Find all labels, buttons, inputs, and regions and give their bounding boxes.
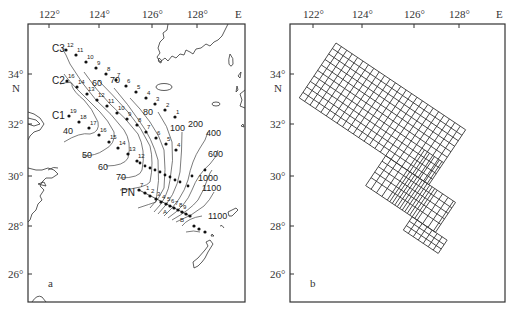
contour-label-70-south: 70: [116, 172, 126, 182]
svg-text:11: 11: [77, 47, 84, 53]
svg-text:18: 18: [80, 114, 87, 120]
svg-text:3: 3: [157, 191, 161, 197]
x-tick-128: 128°: [449, 8, 470, 20]
contour-label-100: 100: [170, 123, 185, 133]
svg-text:15: 15: [110, 134, 117, 140]
svg-text:19: 19: [70, 108, 77, 114]
contour-label-200: 200: [188, 119, 203, 129]
contour-label-80: 80: [143, 107, 153, 117]
section-label-c2: C2: [52, 75, 65, 86]
y-tick-32: 32°: [8, 118, 23, 130]
panel-a-sections: C3 12 11 10 9 8 7 6 5 4 3 2 1 C2: [52, 42, 207, 234]
y-tick-32: 32°: [270, 118, 285, 130]
x-tick-122: 122°: [303, 8, 324, 20]
section-label-c3: C3: [52, 43, 65, 54]
svg-text:12: 12: [138, 153, 145, 159]
svg-text:7: 7: [140, 182, 144, 188]
svg-text:4: 4: [177, 142, 181, 148]
svg-text:12: 12: [67, 42, 74, 48]
svg-text:7: 7: [117, 72, 121, 78]
y-tick-34: 34°: [8, 68, 23, 80]
svg-text:6: 6: [127, 78, 131, 84]
svg-text:6: 6: [157, 130, 161, 136]
svg-text:A: A: [163, 209, 167, 215]
svg-text:2: 2: [166, 102, 170, 108]
panel-a-isobaths: [60, 48, 218, 232]
svg-text:13: 13: [129, 146, 136, 152]
panel-label-a: a: [48, 277, 53, 289]
figure-canvas: 122° 124° 126° 128° E 34° N 32° 30° 28° …: [0, 0, 516, 310]
contour-label-400: 400: [206, 128, 221, 138]
contour-label-60-south: 60: [98, 162, 108, 172]
x-tick-126: 126°: [404, 8, 425, 20]
svg-text:1: 1: [176, 109, 180, 115]
svg-text:4: 4: [147, 90, 151, 96]
section-label-pn: PN: [121, 187, 135, 198]
svg-text:10: 10: [118, 105, 125, 111]
svg-text:17: 17: [90, 120, 97, 126]
y-tick-26: 26°: [8, 268, 23, 280]
panel-a-x-axis: 122° 124° 126° 128° E: [39, 8, 242, 28]
svg-text:7: 7: [147, 124, 151, 130]
svg-text:16: 16: [100, 127, 107, 133]
panel-b: 122° 124° 126° 128° E 34° N 32° 30° 28° …: [270, 8, 507, 302]
contour-label-1100-lower: 1100: [208, 211, 227, 221]
svg-text:5: 5: [137, 84, 141, 90]
section-label-c1: C1: [52, 110, 65, 121]
contour-label-600: 600: [208, 149, 223, 159]
y-tick-28: 28°: [8, 220, 23, 232]
y-unit-north: N: [12, 82, 20, 94]
svg-text:9: 9: [97, 60, 101, 66]
x-unit-east: E: [235, 8, 242, 20]
panel-b-x-axis: 122° 124° 126° 128° E: [303, 8, 503, 28]
panel-a-coastlines: [28, 24, 245, 302]
y-tick-30: 30°: [270, 170, 285, 182]
svg-text:8: 8: [138, 117, 142, 123]
section-c1-stations: 19 18 17 16 15 14 13 12: [67, 108, 145, 163]
svg-text:13: 13: [88, 86, 95, 92]
y-tick-34: 34°: [270, 68, 285, 80]
computational-grid: [270, 43, 504, 253]
svg-text:14: 14: [119, 140, 126, 146]
svg-text:2: 2: [151, 188, 155, 194]
svg-text:16: 16: [68, 73, 75, 79]
svg-text:14: 14: [78, 79, 85, 85]
y-unit-north: N: [274, 82, 282, 94]
svg-text:9: 9: [183, 204, 187, 210]
y-tick-30: 30°: [8, 170, 23, 182]
x-tick-128: 128°: [187, 8, 208, 20]
svg-text:3: 3: [156, 96, 160, 102]
svg-text:11: 11: [108, 98, 115, 104]
contour-label-50: 50: [82, 150, 92, 160]
x-tick-124: 124°: [352, 8, 373, 20]
x-tick-126: 126°: [142, 8, 163, 20]
panel-label-b: b: [310, 277, 316, 289]
x-tick-124: 124°: [89, 8, 110, 20]
svg-text:B: B: [180, 217, 184, 223]
x-tick-122: 122°: [39, 8, 60, 20]
svg-text:10: 10: [87, 54, 94, 60]
y-tick-26: 26°: [270, 268, 285, 280]
contour-label-1000: 1000: [198, 173, 218, 183]
svg-text:8: 8: [107, 66, 111, 72]
svg-text:12: 12: [98, 92, 105, 98]
y-tick-28: 28°: [270, 220, 285, 232]
panel-a-frame: [28, 24, 245, 302]
svg-text:1: 1: [146, 185, 150, 191]
contour-label-40: 40: [63, 126, 73, 136]
contour-label-1100-upper: 1100: [202, 183, 221, 193]
x-unit-east: E: [496, 8, 503, 20]
svg-text:4: 4: [162, 194, 166, 200]
panel-a: 122° 124° 126° 128° E 34° N 32° 30° 28° …: [8, 8, 245, 302]
